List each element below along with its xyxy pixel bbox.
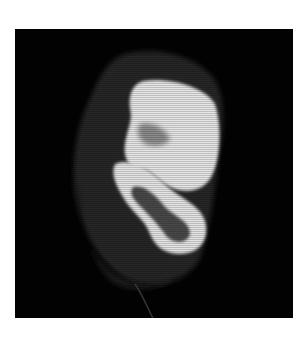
scan-graphic (15, 29, 293, 318)
scan-image (15, 29, 293, 318)
